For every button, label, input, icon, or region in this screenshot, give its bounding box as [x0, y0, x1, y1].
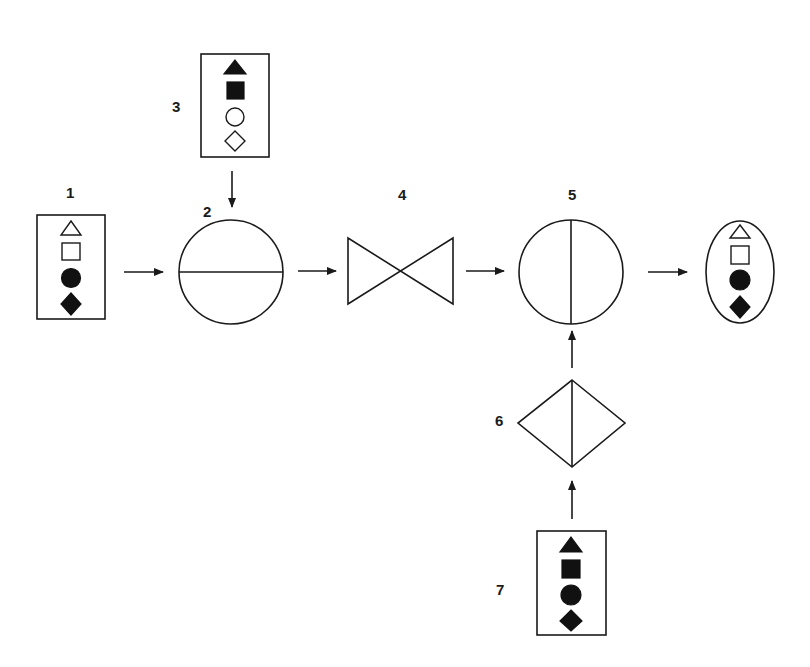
node-7-label: 7 [496, 581, 504, 598]
outline-triangle-icon [730, 225, 750, 238]
process-flow-diagram: 3 1 2 4 5 [0, 0, 810, 667]
node-7-input-box: 7 [496, 531, 606, 635]
node-6-label: 6 [495, 412, 503, 429]
bowtie-valve-icon [348, 238, 453, 304]
outline-square-icon [731, 246, 749, 264]
filled-circle-icon [62, 269, 81, 288]
node-1-label: 1 [66, 184, 74, 201]
outline-circle-icon [226, 108, 244, 126]
outline-square-icon [62, 243, 80, 260]
filled-square-icon [562, 560, 580, 578]
output-ellipse [706, 221, 774, 323]
node-5-mixer-circle: 5 [519, 186, 623, 324]
node-1-input-box: 1 [37, 184, 105, 319]
node-6-diamond: 6 [495, 380, 625, 467]
filled-square-icon [227, 82, 244, 99]
filled-circle-icon [730, 270, 750, 290]
node-2-splitter-circle: 2 [179, 203, 283, 324]
filled-diamond-icon [730, 296, 750, 318]
node-3-label: 3 [172, 98, 180, 115]
node-4-label: 4 [398, 186, 407, 203]
node-3-input-box: 3 [172, 54, 269, 157]
node-4-valve: 4 [348, 186, 453, 304]
filled-circle-icon [561, 585, 581, 605]
node-2-label: 2 [203, 203, 211, 220]
node-5-label: 5 [568, 186, 576, 203]
